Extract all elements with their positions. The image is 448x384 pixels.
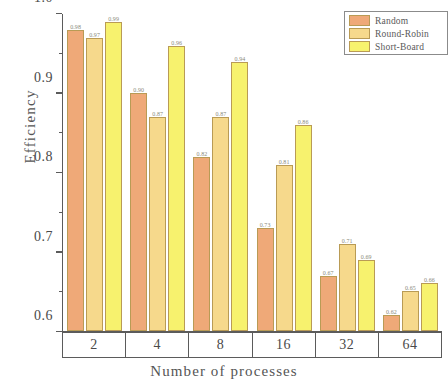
legend-swatch-icon — [349, 15, 370, 26]
bar-value-label: 0.99 — [108, 16, 119, 22]
bar-value-label: 0.94 — [234, 56, 245, 62]
bar-value-label: 0.66 — [424, 277, 435, 283]
bar[interactable]: 0.86 — [295, 125, 312, 331]
legend-label: Short-Board — [375, 42, 424, 52]
legend-label: Random — [375, 16, 408, 26]
category-label: 8 — [189, 333, 252, 357]
legend: RandomRound-RobinShort-Board — [344, 11, 448, 55]
bar[interactable]: 0.62 — [383, 315, 400, 331]
y-tick-major — [56, 172, 62, 173]
y-tick-label: 0.6 — [34, 308, 53, 324]
y-tick-minor — [59, 212, 63, 213]
bar-value-label: 0.96 — [171, 40, 182, 46]
bar-value-label: 0.62 — [386, 309, 397, 315]
bar[interactable]: 0.87 — [212, 117, 229, 331]
bar[interactable]: 0.71 — [339, 244, 356, 331]
bar[interactable]: 0.66 — [421, 283, 438, 331]
y-tick-major — [56, 13, 62, 14]
bar-value-label: 0.82 — [196, 151, 207, 157]
bar[interactable]: 0.81 — [276, 165, 293, 331]
y-axis-title: Efficiency — [22, 37, 39, 217]
bar[interactable]: 0.90 — [130, 93, 147, 331]
bar[interactable]: 0.87 — [149, 117, 166, 331]
category-label: 32 — [316, 333, 379, 357]
y-tick-label: 0.9 — [34, 70, 53, 86]
bar-value-label: 0.67 — [323, 270, 334, 276]
legend-item[interactable]: Round-Robin — [347, 27, 447, 40]
bar-group: 0.670.710.69 — [316, 14, 379, 331]
category-axis: 248163264 — [62, 332, 442, 358]
y-tick-label: 1.0 — [34, 0, 53, 6]
bar-value-label: 0.86 — [298, 119, 309, 125]
bar[interactable]: 0.98 — [67, 30, 84, 331]
bar-value-label: 0.65 — [405, 285, 416, 291]
category-label: 4 — [126, 333, 189, 357]
bar[interactable]: 0.99 — [105, 22, 122, 331]
bar-group: 0.820.870.94 — [189, 14, 252, 331]
bar[interactable]: 0.69 — [358, 260, 375, 331]
bar[interactable]: 0.94 — [231, 62, 248, 331]
y-tick-label: 0.7 — [34, 229, 53, 245]
bar-group: 0.980.970.99 — [63, 14, 126, 331]
bar-value-label: 0.71 — [342, 238, 353, 244]
bar-value-label: 0.97 — [89, 32, 100, 38]
legend-item[interactable]: Random — [347, 14, 447, 27]
bar-value-label: 0.87 — [152, 111, 163, 117]
category-label: 2 — [62, 333, 126, 357]
y-tick-major — [56, 92, 62, 93]
bar[interactable]: 0.82 — [193, 157, 210, 331]
bar-value-label: 0.69 — [361, 254, 372, 260]
legend-item[interactable]: Short-Board — [347, 40, 447, 53]
y-tick-label: 0.8 — [34, 149, 53, 165]
bar-value-label: 0.81 — [279, 159, 290, 165]
y-tick-minor — [59, 53, 63, 54]
y-tick-minor — [59, 132, 63, 133]
efficiency-bar-chart: Efficiency 0.60.70.80.91.0 0.980.970.990… — [0, 0, 448, 384]
legend-label: Round-Robin — [375, 29, 429, 39]
bar-value-label: 0.73 — [260, 222, 271, 228]
bar-value-label: 0.98 — [70, 24, 81, 30]
bar-groups: 0.980.970.990.900.870.960.820.870.940.73… — [63, 14, 442, 331]
bar-group: 0.730.810.86 — [253, 14, 316, 331]
legend-swatch-icon — [349, 28, 370, 39]
bar[interactable]: 0.65 — [402, 291, 419, 331]
x-axis-title: Number of processes — [0, 363, 448, 380]
plot-area: 0.60.70.80.91.0 0.980.970.990.900.870.96… — [62, 14, 442, 332]
bar[interactable]: 0.96 — [168, 46, 185, 331]
category-label: 16 — [253, 333, 316, 357]
category-label: 64 — [379, 333, 442, 357]
legend-swatch-icon — [349, 41, 370, 52]
bar-value-label: 0.87 — [215, 111, 226, 117]
y-tick-minor — [59, 291, 63, 292]
bar-group: 0.900.870.96 — [126, 14, 189, 331]
bar-group: 0.620.650.66 — [379, 14, 442, 331]
bar[interactable]: 0.67 — [320, 276, 337, 331]
y-tick-major — [56, 251, 62, 252]
bar[interactable]: 0.73 — [257, 228, 274, 331]
bar[interactable]: 0.97 — [86, 38, 103, 331]
bar-value-label: 0.90 — [133, 87, 144, 93]
